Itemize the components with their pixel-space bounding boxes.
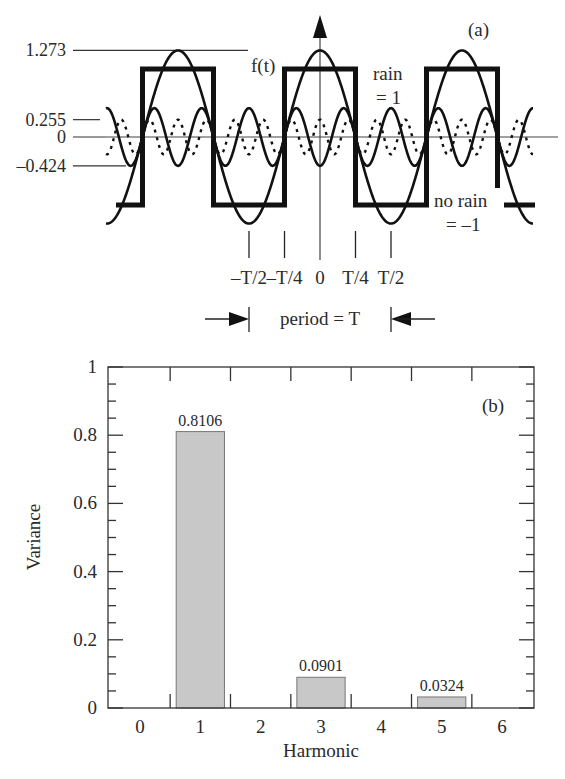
reference-level-label: –0.424 — [16, 156, 67, 176]
panel-a-label: (a) — [468, 19, 489, 41]
bar-value-label: 0.0901 — [299, 657, 343, 674]
bar-harmonic-3 — [297, 677, 345, 708]
y-tick-label: 0.6 — [73, 492, 97, 513]
x-axis-label: Harmonic — [283, 740, 359, 761]
y-tick-label: 0.4 — [73, 561, 97, 582]
x-tick-label: 0 — [135, 716, 145, 737]
bars: 0.81060.09010.0324 — [176, 412, 466, 708]
period-tick-label: 0 — [315, 267, 325, 288]
panel-b-variance-bar-chart: 0.81060.09010.0324 00.20.40.60.81 012345… — [23, 356, 534, 761]
bar-harmonic-5 — [418, 697, 466, 708]
x-tick-label: 5 — [437, 716, 447, 737]
period-label: period = T — [280, 308, 360, 329]
period-ticks: –T/2–T/40T/4T/2 — [230, 231, 404, 288]
period-indicator: period = T — [205, 307, 435, 332]
x-tick-label: 1 — [196, 716, 206, 737]
bar-value-label: 0.0324 — [420, 677, 464, 694]
period-tick-label: T/2 — [378, 267, 404, 288]
no-rain-label: no rain — [434, 190, 488, 211]
vertical-axis-arrow-icon — [313, 15, 327, 38]
period-tick-label: T/4 — [342, 267, 369, 288]
rain-value-label: = 1 — [376, 87, 401, 108]
y-axis-label: Variance — [23, 504, 44, 570]
y-tick-label: 0.2 — [73, 629, 97, 650]
reference-level-label: 1.273 — [26, 40, 67, 60]
figure: (a) 1.2730.2550–0.424 f(t) rain = 1 no r… — [0, 0, 565, 779]
x-tick-label: 2 — [256, 716, 266, 737]
right-arrow-icon — [229, 312, 249, 326]
bar-value-label: 0.8106 — [178, 412, 222, 429]
panel-a-waveform: (a) 1.2730.2550–0.424 f(t) rain = 1 no r… — [16, 15, 559, 332]
panel-b-label: (b) — [482, 395, 504, 417]
y-tick-label: 1 — [88, 356, 98, 377]
function-label: f(t) — [251, 55, 275, 77]
x-tick-label: 3 — [316, 716, 326, 737]
reference-level-label: 0 — [57, 127, 66, 147]
y-tick-label: 0.8 — [73, 424, 97, 445]
x-tick-label: 4 — [377, 716, 387, 737]
bar-harmonic-1 — [176, 432, 224, 708]
period-tick-label: –T/4 — [266, 267, 303, 288]
rain-label: rain — [373, 63, 403, 84]
period-tick-label: –T/2 — [230, 267, 267, 288]
y-tick-label: 0 — [88, 697, 98, 718]
x-tick-label: 6 — [497, 716, 507, 737]
no-rain-value-label: = –1 — [446, 214, 480, 235]
